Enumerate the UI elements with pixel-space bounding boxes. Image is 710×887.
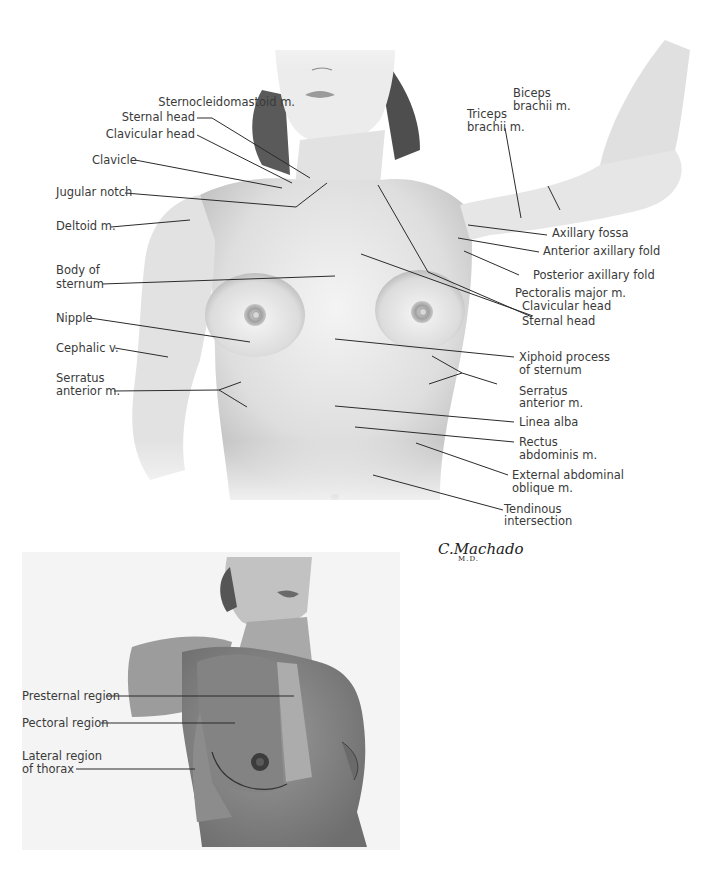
label-nipple: Nipple bbox=[56, 312, 93, 325]
label-lateral-region-line2: of thorax bbox=[22, 763, 74, 776]
artist-signature: C.Machado M.D. bbox=[438, 540, 524, 563]
label-serratus-left-line2: anterior m. bbox=[56, 385, 120, 398]
label-rectus-line2: abdominis m. bbox=[519, 449, 597, 462]
label-pectoral-region: Pectoral region bbox=[22, 717, 108, 730]
regions-panel: Presternal region Pectoral region Latera… bbox=[22, 552, 400, 850]
label-triceps-line2: brachii m. bbox=[467, 121, 525, 134]
label-sternocleidomastoid: Sternocleidomastoid m. bbox=[85, 96, 295, 109]
label-anterior-axillary-fold: Anterior axillary fold bbox=[543, 245, 660, 258]
label-jugular-notch: Jugular notch bbox=[56, 186, 132, 199]
label-xiphoid-line2: of sternum bbox=[519, 364, 582, 377]
label-axillary-fossa: Axillary fossa bbox=[552, 227, 629, 240]
label-clavicle: Clavicle bbox=[92, 154, 137, 167]
label-tendinous-line2: intersection bbox=[504, 515, 572, 528]
label-pectoralis-sternal-head: Sternal head bbox=[522, 315, 595, 328]
label-linea-alba: Linea alba bbox=[519, 416, 578, 429]
label-cephalic-vein: Cephalic v. bbox=[56, 342, 119, 355]
label-scm-clavicular-head: Clavicular head bbox=[85, 128, 195, 141]
label-scm-sternal-head: Sternal head bbox=[85, 111, 195, 124]
label-external-oblique-line2: oblique m. bbox=[512, 482, 573, 495]
label-presternal-region: Presternal region bbox=[22, 690, 120, 703]
label-biceps-line2: brachii m. bbox=[513, 100, 571, 113]
label-body-of-sternum-line2: sternum bbox=[56, 278, 104, 291]
label-body-of-sternum-line1: Body of bbox=[56, 264, 100, 277]
label-pectoralis-clavicular-head: Clavicular head bbox=[522, 300, 611, 313]
signature-text: C.Machado bbox=[438, 540, 524, 558]
label-deltoid: Deltoid m. bbox=[56, 220, 116, 233]
label-posterior-axillary-fold: Posterior axillary fold bbox=[533, 269, 655, 282]
label-serratus-right-line2: anterior m. bbox=[519, 397, 583, 410]
